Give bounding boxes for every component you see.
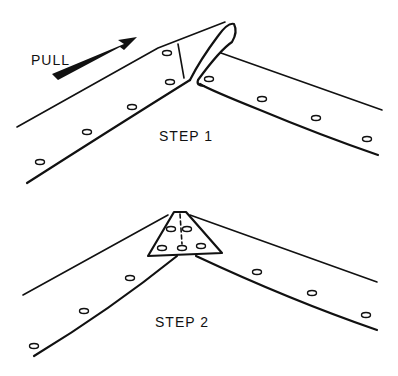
step2-illustration [23,212,377,356]
hole [167,227,176,232]
left-strap-bottom-edge [34,256,177,356]
hole [158,246,167,251]
hole [178,246,187,251]
hole [80,309,89,314]
hole [126,276,135,281]
hole [312,116,321,121]
hole [258,97,267,102]
step1-illustration [17,22,382,183]
hole [128,105,137,110]
hole [83,130,92,135]
hole [163,51,172,56]
hole [362,313,371,318]
left-strap-top-edge [23,215,168,295]
hole [166,80,175,85]
hole [36,160,45,165]
fold-center-line [180,214,182,244]
step2-label: STEP 2 [155,314,209,330]
hole [197,244,206,249]
hole [308,291,317,296]
hole [30,344,39,349]
step1-label: STEP 1 [159,128,213,144]
hole [205,77,214,82]
hole [183,227,192,232]
hole [363,137,372,142]
pull-label: PULL [31,52,70,68]
right-strap-bottom-edge [196,256,377,330]
hole [253,270,262,275]
right-strap-bottom-edge [200,84,378,155]
fold-crease-line [178,44,184,78]
right-strap-top-edge [221,53,382,110]
